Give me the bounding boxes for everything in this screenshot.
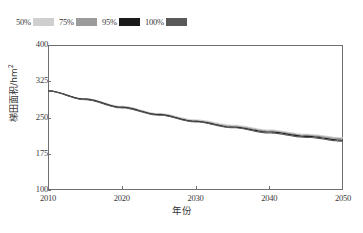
series-line-95pct bbox=[48, 91, 343, 140]
x-tick-label: 2040 bbox=[249, 193, 289, 203]
x-tick-label: 2020 bbox=[102, 193, 142, 203]
legend-swatch-75 bbox=[76, 18, 97, 26]
y-axis-title-text: 梯田面积/hm bbox=[9, 68, 19, 122]
plot-lines bbox=[48, 45, 343, 190]
chart-figure: 50% 75% 95% 100% 100175250325400 梯田面积/hm… bbox=[0, 0, 363, 233]
y-axis-title-superscript: 2 bbox=[7, 64, 15, 68]
series-line-75pct bbox=[48, 91, 343, 139]
x-tick-label: 2050 bbox=[323, 193, 363, 203]
x-tick-label: 2010 bbox=[28, 193, 68, 203]
x-tick-mark bbox=[269, 186, 270, 190]
legend-item-95: 95% bbox=[102, 14, 145, 30]
legend-label-95: 95% bbox=[102, 17, 119, 27]
x-tick-mark bbox=[196, 186, 197, 190]
y-tick-mark bbox=[48, 190, 51, 191]
y-tick-mark bbox=[48, 154, 51, 155]
y-tick-mark bbox=[48, 118, 51, 119]
legend-swatch-95 bbox=[119, 18, 140, 26]
series-line-50pct bbox=[48, 91, 343, 138]
legend-swatch-100 bbox=[166, 18, 187, 26]
legend-item-100: 100% bbox=[145, 14, 192, 30]
legend-label-75: 75% bbox=[59, 17, 76, 27]
y-tick-mark bbox=[48, 81, 51, 82]
y-tick-mark bbox=[48, 45, 51, 46]
x-axis-title: 年份 bbox=[0, 205, 363, 217]
x-tick-label: 2030 bbox=[176, 193, 216, 203]
x-tick-mark bbox=[122, 186, 123, 190]
legend-label-100: 100% bbox=[145, 17, 166, 27]
legend-item-75: 75% bbox=[59, 14, 102, 30]
y-tick-label: 175 bbox=[4, 149, 48, 158]
y-axis-title: 梯田面积/hm2 bbox=[6, 38, 20, 148]
